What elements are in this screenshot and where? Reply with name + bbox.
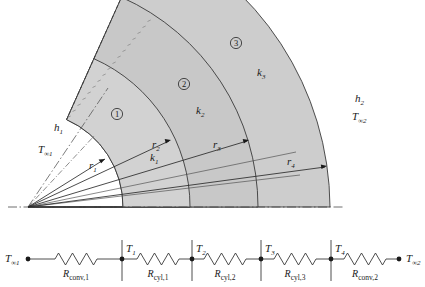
node-label-t3: T3 [265, 242, 275, 257]
layer-2-number: 2 [182, 79, 186, 89]
resistor-label-conv-2: Rconv,2 [351, 268, 378, 282]
node-label-tinf1: T∞1 [5, 252, 20, 267]
resistor-cyl-2 [204, 253, 246, 265]
resistor-label-conv-1: Rconv,1 [62, 268, 89, 282]
node-dot-tinf2 [397, 257, 402, 262]
resistor-cyl-1 [137, 253, 179, 265]
layer-1-number: 1 [115, 109, 119, 119]
cylinder-cross-section: 1 2 3 k1 k2 k3 r1 r2 r3 r4 [8, 0, 367, 207]
node-label-t4: T4 [335, 242, 345, 257]
thermal-resistance-figure: 1 2 3 k1 k2 k3 r1 r2 r3 r4 [0, 0, 425, 287]
inner-heat-transfer-coefficient-label: h1 [54, 121, 63, 136]
resistor-conv-2 [344, 253, 386, 265]
node-label-t1: T1 [126, 242, 136, 257]
node-dot-t2 [190, 257, 195, 262]
resistor-label-cyl-3: Rcyl,3 [284, 268, 306, 282]
node-label-tinf2: T∞2 [406, 252, 421, 267]
resistor-label-cyl-2: Rcyl,2 [214, 268, 236, 282]
node-label-t2: T2 [196, 242, 206, 257]
radius-r1-label: r1 [89, 159, 97, 174]
resistor-conv-1 [55, 253, 97, 265]
resistor-label-cyl-1: Rcyl,1 [147, 268, 169, 282]
node-dot-t1 [120, 257, 125, 262]
node-dot-tinf1 [26, 257, 31, 262]
node-dot-t4 [329, 257, 334, 262]
layer-3-number: 3 [234, 38, 238, 48]
node-dot-t3 [259, 257, 264, 262]
thermal-resistance-network: T∞1 T1 T2 T3 T4 T∞2 Rconv,1 Rcyl,1 Rcyl,… [5, 240, 421, 282]
outer-heat-transfer-coefficient-label: h2 [355, 92, 365, 107]
inner-fluid-temperature-label: T∞1 [38, 143, 53, 158]
resistor-cyl-3 [274, 253, 316, 265]
outer-fluid-temperature-label: T∞2 [352, 110, 367, 125]
